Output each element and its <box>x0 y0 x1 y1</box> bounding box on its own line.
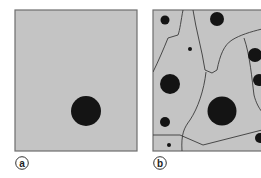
particle <box>167 143 171 147</box>
particle <box>188 47 192 51</box>
figure-canvas: ab <box>0 0 261 178</box>
panel-b: b <box>153 10 261 169</box>
panel-label-text: b <box>157 158 163 169</box>
particle <box>160 74 180 94</box>
panel-label-text: a <box>19 158 25 169</box>
particle <box>71 96 101 126</box>
particle <box>161 16 170 25</box>
particle <box>160 117 170 127</box>
panel-label-b: b <box>154 157 167 170</box>
panel-a: a <box>15 10 137 169</box>
panel-background <box>15 10 137 151</box>
particle <box>208 97 237 126</box>
particle <box>210 12 224 26</box>
panel-label-a: a <box>16 157 29 170</box>
